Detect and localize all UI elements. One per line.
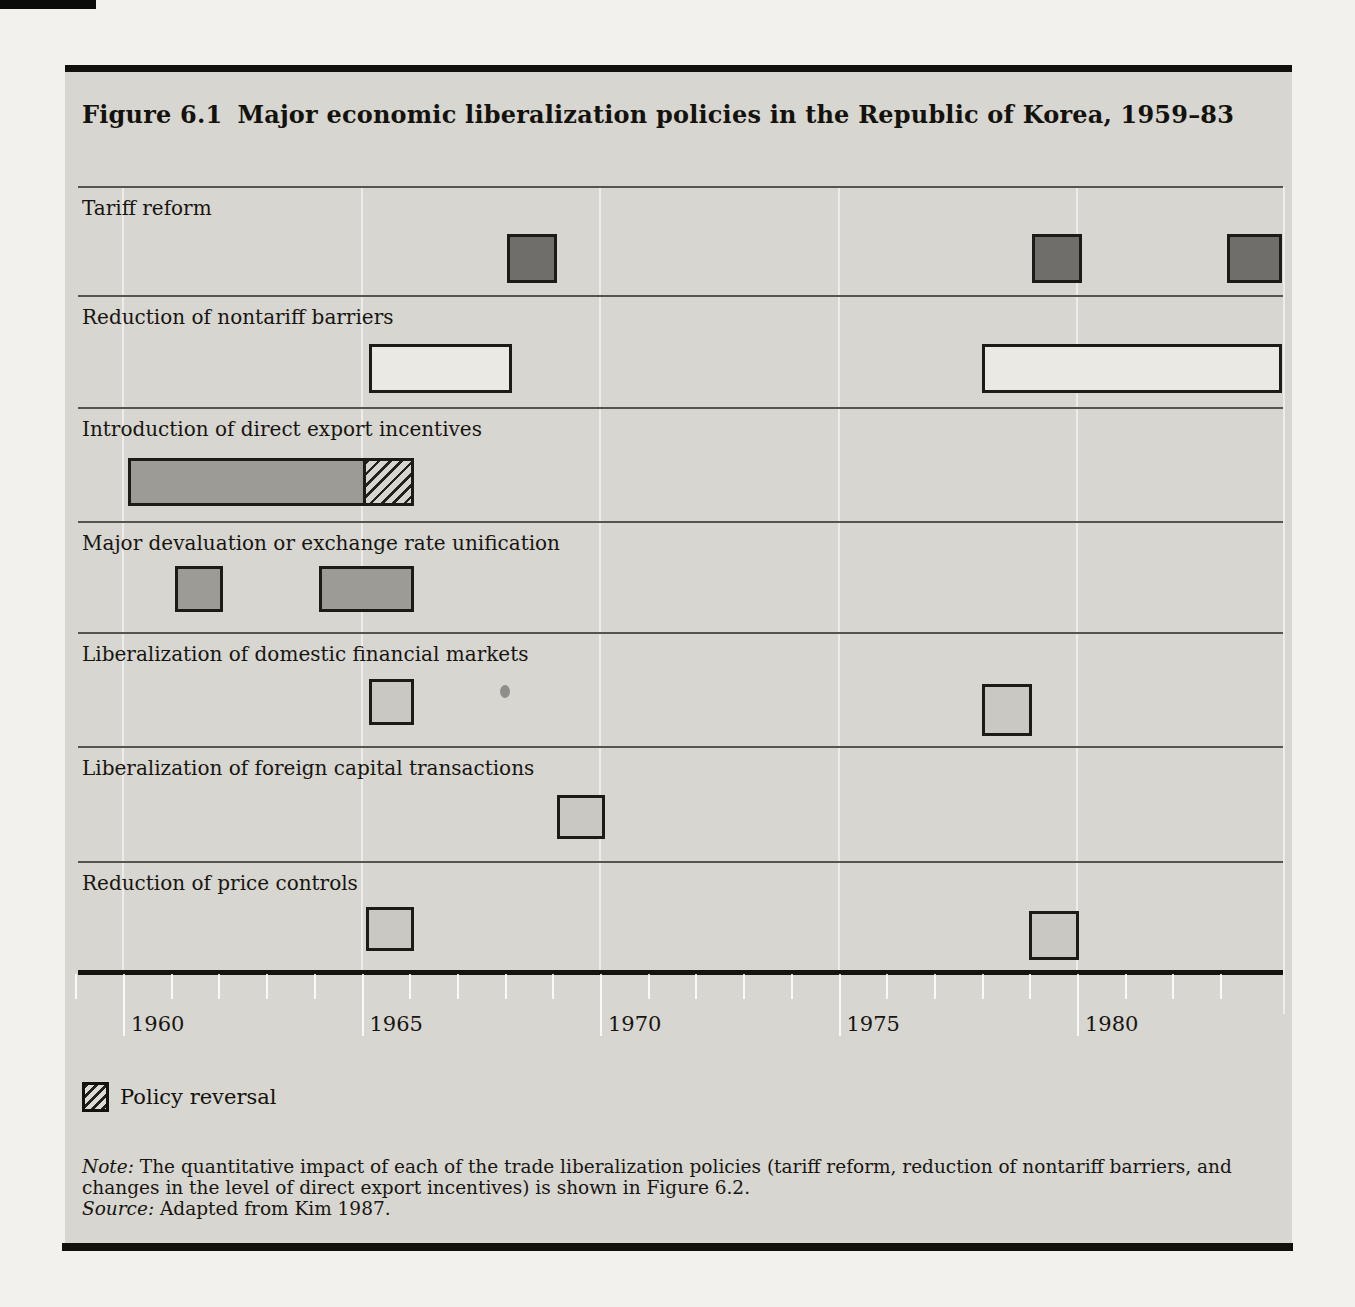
bottom-rule (62, 1243, 1293, 1251)
legend-label: Policy reversal (120, 1085, 276, 1109)
note-label: Note: (82, 1156, 134, 1177)
policy-bar (1227, 234, 1282, 283)
policy-reversal-hatch-icon (82, 1082, 109, 1112)
source-body: Adapted from Kim 1987. (154, 1198, 390, 1219)
policy-bar (369, 344, 512, 393)
axis-tick (266, 974, 268, 999)
axis-tick (982, 974, 984, 999)
axis-tick (695, 974, 697, 999)
policy-bar (1032, 234, 1082, 283)
axis-year-label: 1980 (1085, 1012, 1138, 1036)
top-rule (65, 65, 1292, 72)
row-separator (78, 295, 1283, 297)
row-separator (78, 632, 1283, 634)
axis-tick (886, 974, 888, 999)
axis-tick (552, 974, 554, 999)
axis-tick (123, 974, 125, 1036)
axis-tick (218, 974, 220, 999)
axis-year-label: 1975 (847, 1012, 900, 1036)
figure-notes: Note: The quantitative impact of each of… (82, 1156, 1294, 1219)
axis-tick (1077, 974, 1079, 1036)
legend: Policy reversal (82, 1082, 276, 1112)
major-year-gridline (1076, 187, 1078, 970)
axis-tick (457, 974, 459, 999)
axis-tick (171, 974, 173, 999)
axis-tick (743, 974, 745, 999)
policy-bar (507, 234, 557, 283)
axis-tick (934, 974, 936, 999)
axis-year-label: 1960 (131, 1012, 184, 1036)
row-separator (78, 407, 1283, 409)
plot-right-edge-line (1283, 187, 1285, 1014)
axis-tick (362, 974, 364, 1036)
axis-tick (1125, 974, 1127, 999)
scanned-page: Figure 6.1Major economic liberalization … (0, 0, 1355, 1307)
policy-bar (128, 458, 367, 506)
axis-tick (839, 974, 841, 1036)
figure-title-text: Major economic liberalization policies i… (237, 100, 1234, 129)
major-year-gridline (599, 187, 601, 970)
ink-speck (500, 685, 510, 698)
axis-tick (1220, 974, 1222, 999)
policy-bar (1029, 911, 1079, 960)
axis-tick (1172, 974, 1174, 999)
note-body: The quantitative impact of each of the t… (82, 1156, 1232, 1198)
axis-tick (75, 974, 77, 999)
policy-bar (366, 907, 414, 951)
figure-number: Figure 6.1 (82, 100, 222, 129)
source-label: Source: (82, 1198, 154, 1219)
policy-bar (363, 458, 414, 506)
row-label: Reduction of nontariff barriers (82, 305, 393, 329)
major-year-gridline (838, 187, 840, 970)
policy-bar (175, 566, 223, 612)
row-separator (78, 521, 1283, 523)
row-label: Reduction of price controls (82, 871, 358, 895)
row-separator (78, 861, 1283, 863)
row-separator (78, 746, 1283, 748)
x-axis-line (78, 970, 1283, 975)
axis-year-label: 1970 (608, 1012, 661, 1036)
source-line: Source: Adapted from Kim 1987. (82, 1198, 1294, 1219)
policy-bar (982, 684, 1032, 736)
axis-tick (505, 974, 507, 999)
row-label: Major devaluation or exchange rate unifi… (82, 531, 560, 555)
policy-bar (369, 679, 414, 725)
row-label: Liberalization of domestic financial mar… (82, 642, 528, 666)
figure-title: Figure 6.1Major economic liberalization … (82, 100, 1234, 129)
page-edge-scan-mark (0, 0, 96, 9)
row-separator (78, 186, 1283, 188)
axis-tick (791, 974, 793, 999)
policy-bar (319, 566, 414, 612)
policy-bar (982, 344, 1283, 393)
row-label: Introduction of direct export incentives (82, 417, 482, 441)
axis-tick (314, 974, 316, 999)
axis-tick (600, 974, 602, 1036)
policy-bar (557, 795, 605, 839)
axis-year-label: 1965 (370, 1012, 423, 1036)
axis-tick (1029, 974, 1031, 999)
axis-tick (648, 974, 650, 999)
note-line: Note: The quantitative impact of each of… (82, 1156, 1294, 1198)
axis-tick (409, 974, 411, 999)
row-label: Tariff reform (82, 196, 212, 220)
row-label: Liberalization of foreign capital transa… (82, 756, 534, 780)
